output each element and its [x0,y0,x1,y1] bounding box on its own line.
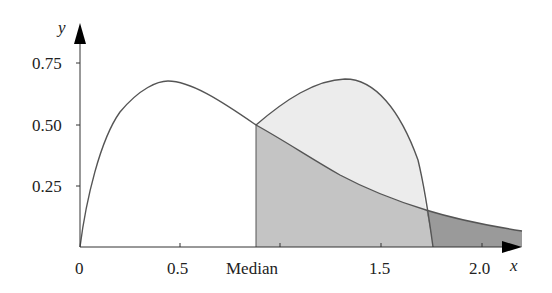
y-axis-label: y [56,18,66,37]
y-tick-label-050: 0.50 [32,116,62,135]
x-tick-label-05: 0.5 [167,259,188,278]
y-axis-arrow-icon [74,23,86,44]
x-tick-label-0: 0 [75,259,84,278]
y-tick-label-025: 0.25 [32,177,62,196]
chart-canvas: y 0.75 0.50 0.25 0 0.5 Median 1.5 2.0 x [0,0,552,293]
x-tick-label-median: Median [226,259,278,278]
x-tick-label-20: 2.0 [469,259,490,278]
y-tick-label-075: 0.75 [32,54,62,73]
x-axis-label: x [509,256,518,275]
x-tick-label-15: 1.5 [369,259,390,278]
